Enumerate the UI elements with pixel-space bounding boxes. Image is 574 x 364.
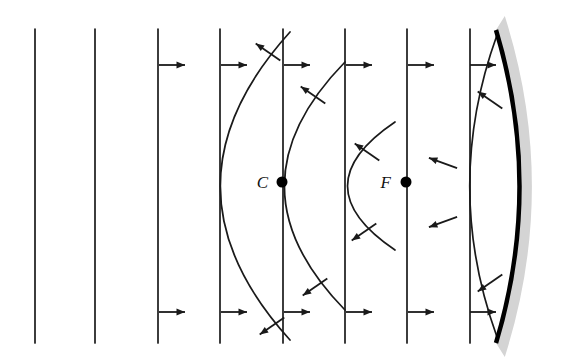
diagram-canvas: CF	[0, 0, 574, 364]
curved-wavefront-curved-4	[470, 35, 497, 337]
curved-wavefront-curved-2	[284, 62, 345, 310]
incident-arrow-top-2-head	[239, 62, 248, 69]
optics-wavefront-diagram: CF	[0, 0, 574, 364]
focal-point-dot	[401, 177, 412, 188]
center-of-curvature-dot	[277, 177, 288, 188]
reflected-arrow-lower-3-head	[352, 233, 361, 241]
incident-arrow-bottom-6-head	[488, 309, 497, 316]
incident-arrow-top-1-head	[177, 62, 186, 69]
incident-ray-arrow-group	[159, 62, 496, 316]
reflected-arrow-upper-1-head	[256, 43, 265, 51]
center-of-curvature-label: C	[257, 173, 269, 192]
reflected-arrow-upper-2-head	[301, 86, 310, 94]
mirror-backing-group	[496, 16, 532, 357]
incident-arrow-bottom-5-head	[426, 309, 435, 316]
incident-arrow-bottom-3-head	[302, 309, 311, 316]
incident-arrow-top-5-head	[426, 62, 435, 69]
mirror-backing	[496, 16, 532, 357]
reflected-arrow-lower-4-head	[429, 221, 438, 227]
incident-arrow-top-3-head	[302, 62, 311, 69]
incident-arrow-top-6-head	[488, 62, 497, 69]
incident-arrow-bottom-4-head	[364, 309, 373, 316]
reflected-arrow-lower-1-head	[260, 327, 269, 335]
reflected-ray-arrow-group	[256, 43, 503, 334]
reflected-arrow-upper-4-head	[429, 158, 438, 164]
incident-arrow-bottom-2-head	[239, 309, 248, 316]
reflected-arrow-lower-2-head	[303, 288, 312, 296]
optical-point-group: CF	[257, 173, 412, 192]
reflected-arrow-lower-5-head	[478, 284, 487, 292]
focal-point-label: F	[380, 173, 392, 192]
incident-arrow-bottom-1-head	[177, 309, 186, 316]
incident-arrow-top-4-head	[364, 62, 373, 69]
